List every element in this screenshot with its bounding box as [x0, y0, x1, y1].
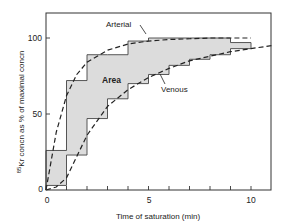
venous-annotation: Venous: [161, 85, 188, 94]
venous-pointer: [160, 74, 165, 84]
x-tick-5: 5: [147, 195, 152, 205]
chart: 100 50 0 0 5 10 Time of saturation (min)…: [0, 0, 287, 223]
arterial-annotation: Arterial: [106, 20, 132, 29]
x-axis-label: Time of saturation (min): [116, 212, 201, 221]
area-annotation: Area: [102, 75, 121, 85]
y-axis-label-text: Kr concn as % of maximal concn: [17, 51, 26, 167]
y-tick-50: 50: [33, 109, 43, 119]
y-tick-100: 100: [28, 33, 42, 43]
shaded-area: [46, 38, 251, 190]
x-tick-0: 0: [45, 195, 50, 205]
y-tick-0: 0: [38, 184, 43, 194]
x-tick-10: 10: [246, 195, 256, 205]
area-fill: [46, 38, 251, 190]
y-axis-label: 85Kr concn as % of maximal concn: [16, 51, 26, 174]
arterial-pointer: [140, 25, 146, 34]
